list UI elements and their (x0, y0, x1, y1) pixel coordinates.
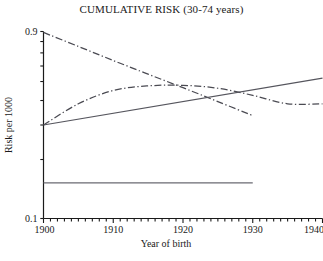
x-axis-title: Year of birth (141, 238, 192, 249)
chart-plot-area: 0.90.119001910192019301940Year of birthR… (0, 0, 323, 261)
x-axis-tick-label: 1900 (35, 224, 55, 235)
x-axis-tick-label: 1940 (304, 224, 323, 235)
x-axis-tick-label: 1920 (173, 224, 193, 235)
chart-figure: CUMULATIVE RISK (30-74 years) 0.90.11900… (0, 0, 323, 261)
x-axis-tick-label: 1930 (243, 224, 263, 235)
y-axis-tick-label: 0.1 (25, 213, 38, 224)
y-axis-tick-label: 0.9 (25, 26, 38, 37)
series-line-peaking-cohort (44, 85, 323, 125)
y-axis-title: Risk per 1000 (3, 97, 14, 153)
x-axis-tick-label: 1910 (103, 224, 123, 235)
series-line-declining-cohort (44, 32, 253, 115)
